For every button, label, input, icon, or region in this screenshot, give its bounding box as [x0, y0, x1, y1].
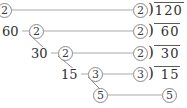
quotient-row2: 60	[1, 25, 20, 38]
dividend-row1: )120	[148, 2, 184, 17]
circled-factor-row5-left: 5	[93, 88, 108, 103]
quotient-row3: 30	[30, 47, 49, 60]
dividend-row2: )60	[148, 23, 180, 38]
dividend-value-row2: 60	[154, 23, 181, 38]
dividend-value-row4: 15	[154, 66, 181, 81]
dividend-value-row3: 30	[154, 45, 181, 60]
circled-divisor-row1: 2	[133, 3, 148, 18]
circled-factor-row4-mid: 3	[88, 67, 103, 82]
circled-divisor-row4: 3	[133, 67, 148, 82]
dividend-row3: )30	[148, 45, 180, 60]
circled-factor-row2-mid: 2	[29, 24, 44, 39]
dividend-value-row1: 120	[154, 2, 184, 17]
circled-factor-row3-mid: 2	[58, 46, 73, 61]
quotient-row4: 15	[60, 68, 79, 81]
circled-divisor-row2: 2	[133, 24, 148, 39]
circled-divisor-row3: 2	[133, 46, 148, 61]
circled-divisor-row5: 5	[162, 88, 177, 103]
dividend-row4: )15	[148, 66, 180, 81]
factor-tree-diagram: 2 2 )120 60 2 2 )60 30 2 2 )30 15 3 3 )1…	[0, 0, 187, 108]
